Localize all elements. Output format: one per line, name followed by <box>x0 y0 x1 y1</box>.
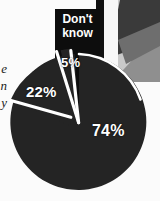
figure-canvas: 74% 22% 5% Don't know e n y <box>0 0 160 201</box>
pie-label-5: 5% <box>61 56 80 69</box>
gutter-fragment-3: y <box>0 94 7 111</box>
dont-know-callout: Don't know <box>55 9 100 43</box>
pie-label-22: 22% <box>26 84 57 99</box>
callout-line-2: know <box>55 26 100 40</box>
pie-label-74: 74% <box>92 123 125 139</box>
left-gutter-text-fragments: e n y <box>0 60 7 111</box>
gutter-fragment-2: n <box>0 77 7 94</box>
callout-line-1: Don't <box>55 12 100 26</box>
gutter-fragment-1: e <box>0 60 7 77</box>
